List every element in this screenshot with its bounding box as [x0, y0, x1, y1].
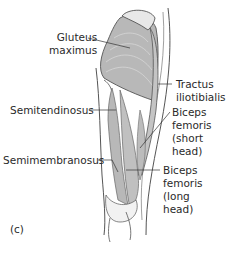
label-biceps-femoris-long-head: Biceps femoris (long head) [163, 164, 203, 216]
label-tractus-iliotibialis: Tractus iliotibialis [176, 78, 226, 104]
label-biceps-femoris-short-head: Biceps femoris (short head) [172, 106, 212, 158]
label-semitendinosus: Semitendinosus [10, 104, 94, 117]
posterior-thigh-diagram: Gluteus maximus Tractus iliotibialis Sem… [0, 0, 237, 253]
label-semimembranosus: Semimembranosus [3, 154, 104, 167]
label-gluteus-maximus: Gluteus maximus [49, 31, 97, 57]
panel-label: (c) [10, 223, 24, 236]
